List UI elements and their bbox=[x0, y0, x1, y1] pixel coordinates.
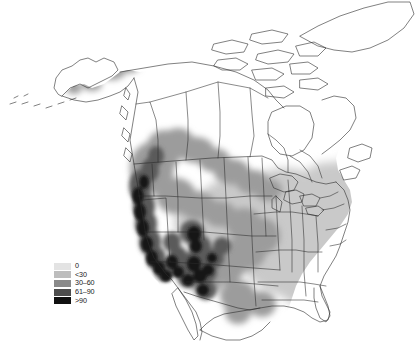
legend-label-4: >90 bbox=[75, 297, 87, 305]
legend-swatch-1 bbox=[54, 271, 71, 278]
legend-swatch-2 bbox=[54, 280, 71, 287]
legend-swatch-4 bbox=[54, 297, 71, 304]
florida-peninsula bbox=[314, 286, 330, 322]
legend-item: >90 bbox=[54, 296, 110, 305]
nova-scotia bbox=[340, 166, 360, 180]
map-figure: 0 <30 30–60 61–90 >90 bbox=[0, 0, 415, 353]
legend-swatch-3 bbox=[54, 289, 71, 296]
legend-label-3: 61–90 bbox=[75, 288, 95, 296]
legend-swatch-0 bbox=[54, 263, 71, 270]
density-legend: 0 <30 30–60 61–90 >90 bbox=[54, 262, 110, 305]
newfoundland bbox=[348, 144, 372, 162]
